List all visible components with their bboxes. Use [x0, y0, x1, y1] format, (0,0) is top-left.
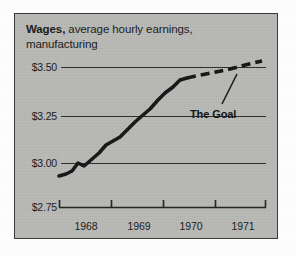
y-tick-label-350: $3.50	[14, 61, 57, 73]
goal-leader-line	[222, 74, 237, 104]
series-goal-dashed-line	[187, 61, 262, 78]
y-tick-label-275: $2.75	[14, 201, 57, 213]
x-tick-label-1971: 1971	[223, 220, 263, 232]
goal-annotation-label: The Goal	[190, 108, 236, 120]
chart-title: Wages, average hourly earnings, manufact…	[26, 22, 266, 51]
y-tick-label-325: $3.25	[14, 110, 57, 122]
chart-page: Wages, average hourly earnings, manufact…	[0, 0, 296, 256]
y-tick-label-300: $3.00	[14, 157, 57, 169]
x-axis	[59, 200, 266, 208]
x-tick-label-1969: 1969	[119, 220, 159, 232]
x-tick-label-1970: 1970	[171, 220, 211, 232]
x-tick-label-1968: 1968	[66, 220, 106, 232]
series-actual-line	[59, 78, 187, 176]
chart-panel: Wages, average hourly earnings, manufact…	[14, 13, 278, 239]
chart-title-lead: Wages,	[26, 23, 65, 35]
